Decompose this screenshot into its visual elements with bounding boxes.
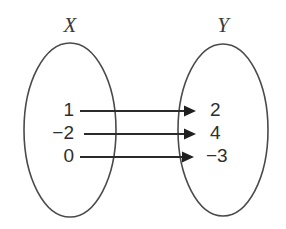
- codomain-element-1: 4: [210, 122, 221, 143]
- arrow-head-icon-2: [182, 152, 194, 163]
- mapping-diagram: X 1 −2 0 Y 2 4 −3: [0, 0, 286, 229]
- mapping-arrow-1: [84, 129, 196, 140]
- mapping-diagram-svg: X 1 −2 0 Y 2 4 −3: [0, 0, 286, 229]
- codomain-element-0: 2: [210, 99, 221, 120]
- arrow-head-icon-0: [184, 106, 196, 117]
- set-label-y: Y: [217, 13, 231, 37]
- set-label-x: X: [63, 13, 78, 37]
- mapping-arrow-2: [80, 152, 194, 163]
- arrow-head-icon-1: [184, 129, 196, 140]
- codomain-element-2: −3: [206, 145, 228, 166]
- set-oval-codomain: [178, 44, 268, 216]
- domain-element-0: 1: [63, 99, 74, 120]
- domain-element-1: −2: [52, 122, 74, 143]
- domain-element-2: 0: [63, 145, 74, 166]
